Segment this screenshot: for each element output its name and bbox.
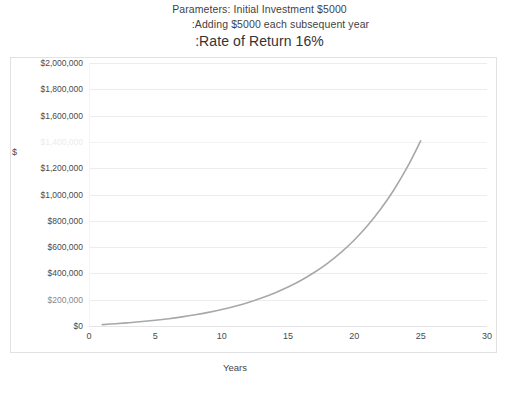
x-axis-title: Years — [0, 362, 470, 373]
x-axis-tick-label: 15 — [283, 330, 293, 342]
y-axis-tick-label: $200,000 — [48, 295, 83, 305]
plot-area — [89, 63, 487, 326]
y-axis-tick-label: $800,000 — [48, 216, 83, 226]
y-axis-tick-labels: $0$200,000$400,000$600,000$800,000$1,000… — [11, 63, 83, 326]
x-axis-tick-label: 25 — [416, 330, 426, 342]
chart-title-block: Parameters: Initial Investment $5000 :Ad… — [0, 0, 513, 51]
y-axis-tick-label: $0 — [74, 321, 83, 331]
y-axis-tick-label: $400,000 — [48, 268, 83, 278]
gridline — [89, 326, 487, 327]
x-axis-tick-label: 30 — [482, 330, 492, 342]
y-axis-tick-label: $1,200,000 — [40, 163, 83, 173]
y-axis-tick-label: $600,000 — [48, 242, 83, 252]
chart-frame: $0$200,000$400,000$600,000$800,000$1,000… — [10, 57, 497, 353]
y-axis-title: $ — [12, 147, 17, 157]
y-axis-tick-label: $1,800,000 — [40, 84, 83, 94]
x-axis-tick-label: 0 — [86, 330, 91, 342]
x-axis-tick-label: 20 — [349, 330, 359, 342]
series-line-portfolio-value — [102, 141, 420, 325]
x-axis-tick-labels: 051015202530 — [89, 330, 487, 346]
series-plot — [89, 63, 487, 326]
chart-title-line-3: :Rate of Return 16% — [0, 32, 513, 51]
x-axis-tick-label: 10 — [217, 330, 227, 342]
y-axis-tick-label: $1,400,000 — [40, 137, 83, 147]
chart-title-line-1: Parameters: Initial Investment $5000 — [0, 2, 513, 17]
y-axis-tick-label: $2,000,000 — [40, 58, 83, 68]
chart-title-line-2: :Adding $5000 each subsequent year — [0, 17, 513, 32]
x-axis-tick-label: 5 — [153, 330, 158, 342]
y-axis-tick-label: $1,600,000 — [40, 111, 83, 121]
y-axis-tick-label: $1,000,000 — [40, 190, 83, 200]
